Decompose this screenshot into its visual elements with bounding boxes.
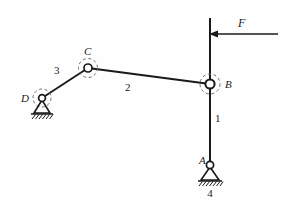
joint-B-pin-circle <box>205 79 214 88</box>
link-label-2: 2 <box>125 81 131 93</box>
link-3-crank <box>42 68 88 98</box>
joint-label-C: C <box>84 45 92 57</box>
link-2-connecting-rod <box>88 68 210 84</box>
kinematic-diagram: A B C D 1 2 3 4 F <box>0 0 283 205</box>
support-A-pin-circle <box>206 161 213 168</box>
joint-label-D: D <box>20 92 29 104</box>
support-D-fixed-pin <box>31 89 53 119</box>
link-label-3: 3 <box>54 64 60 76</box>
link-2-rod-line <box>88 68 210 84</box>
force-label-F: F <box>237 16 246 30</box>
link-label-1: 1 <box>215 112 221 124</box>
joint-label-B: B <box>225 78 232 90</box>
joint-label-A: A <box>198 154 206 166</box>
link-label-4: 4 <box>207 187 213 199</box>
support-D-hatching <box>32 115 53 120</box>
link-3-crank-line <box>42 68 88 98</box>
support-A-hatching <box>199 182 223 187</box>
joint-C-pin-circle <box>84 64 92 72</box>
force-arrow-F <box>209 30 278 37</box>
mechanism-drawing: A B C D 1 2 3 4 F <box>0 0 283 205</box>
support-D-pin-circle <box>39 95 46 102</box>
